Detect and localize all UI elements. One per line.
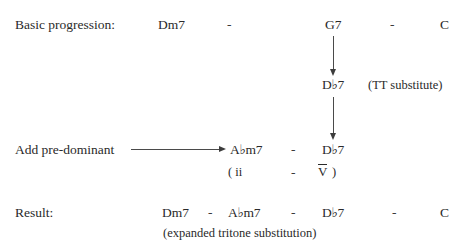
tt-substitute-annotation: (TT substitute) <box>368 79 442 92</box>
roman-numeral-v-overbar: V <box>318 164 327 179</box>
predominant-dash-1: - <box>291 143 296 157</box>
result-caption: (expanded tritone substitution) <box>163 227 316 240</box>
tritone-substitution-diagram: Basic progression: Dm7 - G7 - C D♭7 (TT … <box>0 0 466 249</box>
basic-progression-label: Basic progression: <box>15 18 115 32</box>
result-chord-abm7: A♭m7 <box>228 206 260 220</box>
roman-dash: - <box>291 166 296 180</box>
roman-numeral-substitute-dominant: V <box>318 164 327 179</box>
roman-open-paren: ( ii <box>228 166 242 179</box>
basic-chord-c: C <box>440 18 449 32</box>
predominant-chord-db7: D♭7 <box>322 143 344 157</box>
result-dash-2: - <box>291 206 296 220</box>
basic-dash-2: - <box>390 18 395 32</box>
basic-chord-g7: G7 <box>325 18 342 32</box>
result-label: Result: <box>15 206 53 220</box>
basic-dash-1: - <box>227 18 232 32</box>
basic-chord-dm7: Dm7 <box>158 18 185 32</box>
add-predominant-label: Add pre-dominant <box>15 143 114 157</box>
result-chord-db7: D♭7 <box>322 206 344 220</box>
result-chord-c: C <box>440 206 449 220</box>
tt-substitute-chord-db7: D♭7 <box>322 78 344 92</box>
result-chord-dm7: Dm7 <box>162 206 189 220</box>
predominant-chord-abm7: A♭m7 <box>230 143 262 157</box>
result-dash-1: - <box>208 206 213 220</box>
result-dash-3: - <box>392 206 397 220</box>
roman-close-paren: ) <box>332 166 336 179</box>
